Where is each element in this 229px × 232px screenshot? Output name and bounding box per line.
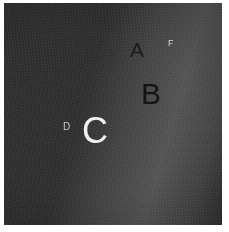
ring-label-b: B — [141, 79, 161, 109]
saturn-rings-figure: A F B C D — [0, 0, 229, 232]
image-plate: A F B C D — [4, 3, 222, 225]
ring-label-d: D — [63, 122, 70, 132]
ring-label-f: F — [168, 39, 174, 48]
ring-label-c: C — [82, 113, 108, 149]
ring-label-a: A — [130, 39, 144, 60]
